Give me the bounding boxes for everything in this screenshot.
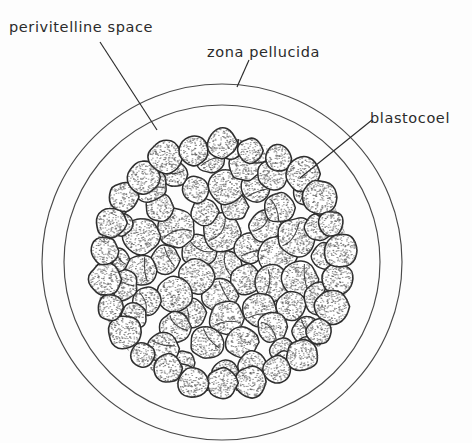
label-zona-pellucida: zona pellucida xyxy=(207,45,320,60)
blastocyst-diagram xyxy=(0,0,472,443)
blastomere-cell xyxy=(91,237,119,264)
blastomere-cell xyxy=(178,368,209,397)
blastomere-cell xyxy=(191,327,224,359)
blastomere-cell xyxy=(157,276,192,312)
blastomere-cell xyxy=(319,212,343,236)
cell-outline xyxy=(302,180,337,214)
blastomere-cell xyxy=(131,343,155,368)
blastomere-cell xyxy=(322,264,353,295)
cell-outline xyxy=(131,343,155,368)
blastomere-cell xyxy=(179,136,208,166)
blastomere-cell xyxy=(98,295,123,321)
label-blastocoel: blastocoel xyxy=(370,111,450,126)
blastomere-cell xyxy=(324,234,357,266)
blastomere-cell xyxy=(286,340,317,371)
blastomere-cell xyxy=(302,180,337,214)
label-perivitelline-space: perivitelline space xyxy=(9,20,153,35)
cell-outline xyxy=(157,276,192,312)
